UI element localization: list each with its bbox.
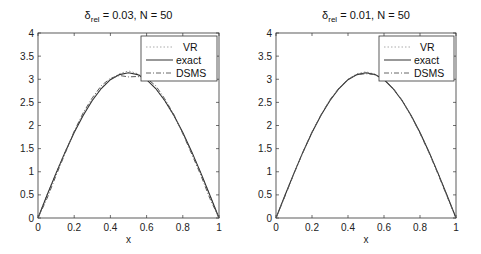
right-plot-panel: δrel = 0.01, N = 50 00.511.522.533.54 00…	[258, 9, 459, 245]
x-tick-label: 0.4	[103, 222, 117, 233]
x-tick-label: 0.4	[341, 222, 355, 233]
right-plot-title: δrel = 0.01, N = 50	[322, 9, 410, 24]
y-tick-label: 1	[28, 166, 34, 177]
x-tick-label: 0.6	[377, 222, 391, 233]
x-tick-label: 0	[273, 222, 279, 233]
y-tick-label: 1	[266, 166, 272, 177]
y-tick-label: 3	[28, 74, 34, 85]
y-tick-label: 0	[28, 213, 34, 224]
x-tick-label: 0.8	[176, 222, 190, 233]
figure: δrel = 0.03, N = 50 00.511.522.533.54 00…	[0, 0, 481, 254]
x-tick-label: 0	[35, 222, 41, 233]
y-tick-label: 1.5	[20, 143, 34, 154]
y-tick-label: 0.5	[20, 189, 34, 200]
y-tick-label: 3	[266, 74, 272, 85]
y-tick-label: 2.5	[258, 97, 272, 108]
y-tick-label: 2	[266, 120, 272, 131]
legend-vr-label: VR	[420, 41, 435, 53]
y-tick-label: 0	[266, 213, 272, 224]
y-tick-label: 1.5	[258, 143, 272, 154]
x-tick-label: 0.2	[67, 222, 81, 233]
x-tick-label: 0.2	[305, 222, 319, 233]
y-tick-label: 4	[266, 28, 272, 39]
y-tick-label: 2.5	[20, 97, 34, 108]
y-tick-label: 2	[28, 120, 34, 131]
left-plot-title: δrel = 0.03, N = 50	[85, 9, 173, 24]
x-tick-label: 0.6	[140, 222, 154, 233]
x-tick-label: 1	[453, 222, 459, 233]
left-plot-x-label: x	[126, 234, 131, 245]
legend-vr-label: VR	[183, 41, 198, 53]
y-tick-label: 3.5	[20, 51, 34, 62]
right-plot-x-label: x	[364, 234, 369, 245]
y-tick-label: 0.5	[258, 189, 272, 200]
x-tick-label: 0.8	[413, 222, 427, 233]
legend-dsms-label: DSMS	[414, 67, 444, 79]
y-tick-label: 4	[28, 28, 34, 39]
legend-dsms-label: DSMS	[176, 67, 206, 79]
right-plot-legend: VR exact DSMS	[379, 36, 454, 81]
x-tick-label: 1	[216, 222, 222, 233]
left-plot-panel: δrel = 0.03, N = 50 00.511.522.533.54 00…	[20, 9, 222, 245]
left-plot-legend: VR exact DSMS	[141, 36, 217, 81]
y-tick-label: 3.5	[258, 51, 272, 62]
legend-exact-label: exact	[414, 54, 439, 66]
legend-exact-label: exact	[176, 54, 201, 66]
